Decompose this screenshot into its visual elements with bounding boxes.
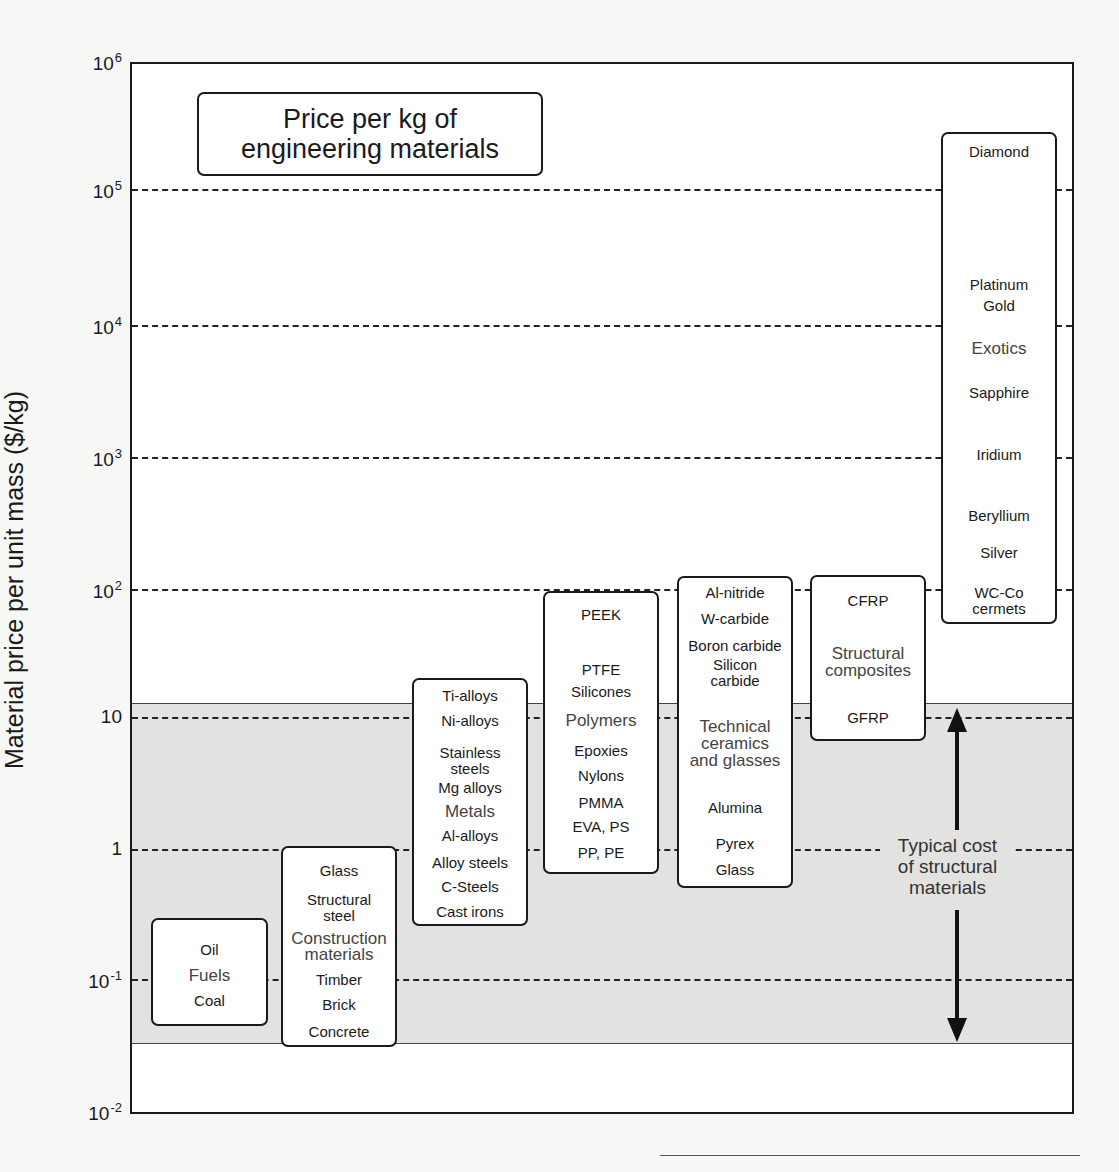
box-construction: Glass Structural steel Construction mate… [281,846,397,1047]
class-exotics: Exotics [943,340,1055,357]
box-composites: CFRP Structural composites GFRP [810,575,926,741]
chart-title: Price per kg of engineering materials [197,92,543,176]
class-composites: Structural [812,645,924,662]
item-ti-alloys: Ti-alloys [414,688,526,704]
ytick-1e-2: 10-2 [62,1100,122,1125]
ytick-1e2: 102 [62,578,122,603]
ytick-10: 10 [62,706,122,728]
item-pyrex: Pyrex [679,836,791,852]
item-nylons: Nylons [545,768,657,784]
item-structural-steel-2: steel [283,908,395,924]
item-sapphire: Sapphire [943,385,1055,401]
item-epoxies: Epoxies [545,743,657,759]
item-cast-irons: Cast irons [414,904,526,920]
ytick-1: 1 [62,838,122,860]
box-exotics: Diamond Platinum Gold Exotics Sapphire I… [941,132,1057,624]
item-silicones: Silicones [545,684,657,700]
arrow-shaft-lower [955,910,959,1020]
typical-cost-annotation: Typical cost of structural materials [880,835,1015,898]
item-platinum: Platinum [943,277,1055,293]
item-alumina: Alumina [679,800,791,816]
gridline-1e-1 [132,979,1072,981]
box-fuels: Oil Fuels Coal [151,918,268,1026]
item-alloy-steels: Alloy steels [414,855,526,871]
class-ceramics-3: and glasses [679,752,791,769]
item-silver: Silver [943,545,1055,561]
class-composites-2: composites [812,662,924,679]
item-eva-ps: EVA, PS [545,819,657,835]
item-pp-pe: PP, PE [545,845,657,861]
item-al-alloys: Al-alloys [414,828,526,844]
class-metals: Metals [414,803,526,820]
class-ceramics-2: ceramics [679,735,791,752]
ytick-1e4: 104 [62,314,122,339]
item-diamond: Diamond [943,144,1055,160]
item-peek: PEEK [545,607,657,623]
item-glass: Glass [679,862,791,878]
class-polymers: Polymers [545,712,657,729]
typical-cost-line2: of structural [880,856,1015,877]
gridline-1e4 [132,325,1072,327]
item-cermets: cermets [943,601,1055,617]
gridline-1e3 [132,457,1072,459]
item-glass: Glass [283,863,395,879]
class-ceramics: Technical [679,718,791,735]
item-gold: Gold [943,298,1055,314]
item-brick: Brick [283,997,395,1013]
box-ceramics: Al-nitride W-carbide Boron carbide Silic… [677,576,793,888]
arrow-shaft-upper [955,728,959,830]
item-pmma: PMMA [545,795,657,811]
y-axis-label: Material price per unit mass ($/kg) [0,370,40,790]
item-iridium: Iridium [943,447,1055,463]
item-wc-co: WC-Co [943,585,1055,601]
box-polymers: PEEK PTFE Silicones Polymers Epoxies Nyl… [543,591,659,874]
footer-rule [660,1155,1080,1156]
item-timber: Timber [283,972,395,988]
ytick-1e3: 103 [62,446,122,471]
box-metals: Ti-alloys Ni-alloys Stainless steels Mg … [412,678,528,926]
item-c-steels: C-Steels [414,879,526,895]
item-stainless: Stainless [414,745,526,761]
ytick-1e6: 106 [62,50,122,75]
ytick-1e5: 105 [62,178,122,203]
arrow-down-icon [947,1018,967,1042]
item-al-nitride: Al-nitride [679,585,791,601]
chart-title-line1: Price per kg of [283,104,457,134]
item-cfrp: CFRP [812,593,924,609]
ytick-1e-1: 10-1 [62,968,122,993]
item-silicon-carbide-2: carbide [679,673,791,689]
item-mg-alloys: Mg alloys [414,780,526,796]
item-w-carbide: W-carbide [679,611,791,627]
item-ptfe: PTFE [545,662,657,678]
chart-title-line2: engineering materials [241,134,499,164]
item-silicon-carbide: Silicon [679,657,791,673]
item-gfrp: GFRP [812,710,924,726]
item-boron-carbide: Boron carbide [679,638,791,654]
item-structural-steel: Structural [283,892,395,908]
typical-cost-line1: Typical cost [880,835,1015,856]
item-beryllium: Beryllium [943,508,1055,524]
item-coal: Coal [153,993,266,1009]
class-fuels: Fuels [153,967,266,984]
typical-cost-line3: materials [880,877,1015,898]
gridline-1e5 [132,189,1072,191]
item-stainless-2: steels [414,761,526,777]
class-construction-2: materials [283,946,395,963]
item-oil: Oil [153,942,266,958]
item-concrete: Concrete [283,1024,395,1040]
item-ni-alloys: Ni-alloys [414,713,526,729]
